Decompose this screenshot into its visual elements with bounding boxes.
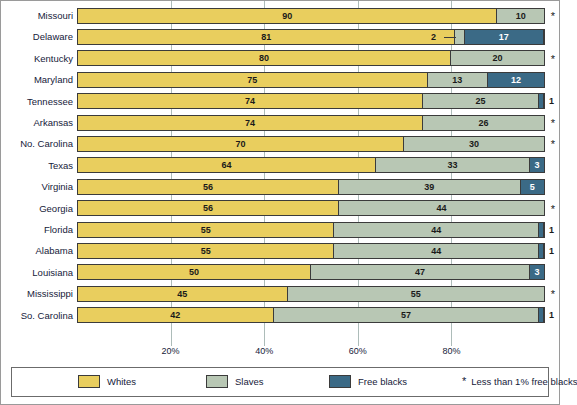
segment-slaves: [455, 30, 464, 44]
segment-whites: 74: [78, 116, 423, 130]
row-label-florida: Florida: [1, 219, 73, 240]
row-label-arkansas: Arkansas: [1, 112, 73, 133]
stacked-bar-chart: Missouri9010*Delaware81172Kentucky8020*M…: [1, 1, 559, 346]
segment-free-blacks-label: 1: [549, 310, 554, 320]
segment-slaves-label: 2: [431, 32, 436, 42]
bar-track: 74251: [77, 93, 545, 109]
leader-line: [444, 37, 456, 38]
segment-whites: 90: [78, 9, 497, 23]
bar-track: 64333: [77, 157, 545, 173]
bar-track: 81172: [77, 29, 545, 45]
segment-slaves: 30: [404, 137, 544, 151]
chart-legend: Whites Slaves Free blacks * Less than 1%…: [11, 367, 549, 397]
chart-row: Georgia5644*: [1, 198, 559, 219]
asterisk-icon: *: [462, 375, 466, 387]
segment-whites: 55: [78, 223, 334, 237]
row-label-louisiana: Louisiana: [1, 262, 73, 283]
legend-label-whites: Whites: [107, 376, 136, 387]
legend-label-slaves: Slaves: [235, 376, 264, 387]
segment-slaves: 26: [423, 116, 544, 130]
bar-track: 5644: [77, 200, 545, 216]
asterisk-icon: *: [548, 283, 558, 304]
chart-row: Texas64333: [1, 155, 559, 176]
row-label-mississippi: Mississippi: [1, 283, 73, 304]
segment-free-blacks: [539, 223, 544, 237]
row-label-texas: Texas: [1, 155, 73, 176]
row-label-no-carolina: No. Carolina: [1, 133, 73, 154]
segment-slaves: 20: [451, 51, 544, 65]
asterisk-icon: *: [548, 5, 558, 26]
row-label-maryland: Maryland: [1, 69, 73, 90]
segment-slaves: 25: [423, 94, 540, 108]
segment-whites: 70: [78, 137, 404, 151]
legend-swatch-whites: [78, 375, 100, 388]
segment-free-blacks-label: 1: [549, 96, 554, 106]
segment-whites: 56: [78, 180, 339, 194]
chart-row: Missouri9010*: [1, 5, 559, 26]
legend-footnote: * Less than 1% free blacks: [462, 375, 577, 387]
segment-free-blacks: [539, 308, 544, 322]
chart-row: Arkansas7426*: [1, 112, 559, 133]
chart-row: Tennessee74251: [1, 91, 559, 112]
bar-track: 55441: [77, 222, 545, 238]
x-tick-label: 80%: [442, 346, 460, 356]
bar-track: 7426: [77, 115, 545, 131]
chart-row: Virginia56395: [1, 176, 559, 197]
segment-slaves: 47: [311, 265, 530, 279]
chart-row: Delaware81172: [1, 26, 559, 47]
bar-track: 56395: [77, 179, 545, 195]
row-label-delaware: Delaware: [1, 26, 73, 47]
bar-track: 751312: [77, 72, 545, 88]
legend-item-whites: Whites: [78, 375, 136, 388]
legend-label-free-blacks: Free blacks: [358, 376, 407, 387]
segment-slaves: 44: [334, 244, 539, 258]
segment-slaves: 13: [428, 73, 489, 87]
segment-whites: 45: [78, 287, 288, 301]
chart-row: Louisiana50473: [1, 262, 559, 283]
chart-row: Mississippi4555*: [1, 283, 559, 304]
legend-swatch-free-blacks: [329, 375, 351, 388]
segment-whites: 74: [78, 94, 423, 108]
segment-slaves: 33: [376, 158, 530, 172]
segment-whites: 81: [78, 30, 455, 44]
segment-whites: 56: [78, 201, 339, 215]
segment-free-blacks: 17: [465, 30, 544, 44]
chart-row: Florida55441: [1, 219, 559, 240]
bar-track: 55441: [77, 243, 545, 259]
segment-free-blacks: [539, 244, 544, 258]
chart-row: No. Carolina7030*: [1, 133, 559, 154]
segment-slaves: 44: [334, 223, 539, 237]
segment-slaves: 44: [339, 201, 544, 215]
segment-whites: 64: [78, 158, 376, 172]
segment-whites: 55: [78, 244, 334, 258]
segment-free-blacks: 5: [521, 180, 544, 194]
x-tick-label: 40%: [255, 346, 273, 356]
segment-slaves: 10: [497, 9, 544, 23]
x-axis: 20%40%60%80%: [1, 346, 559, 362]
chart-row: So. Carolina42571: [1, 305, 559, 326]
segment-free-blacks: 3: [530, 158, 544, 172]
row-label-tennessee: Tennessee: [1, 91, 73, 112]
segment-free-blacks: 3: [530, 265, 544, 279]
asterisk-icon: *: [548, 198, 558, 219]
row-label-so-carolina: So. Carolina: [1, 305, 73, 326]
segment-whites: 50: [78, 265, 311, 279]
segment-whites: 42: [78, 308, 274, 322]
asterisk-icon: *: [548, 112, 558, 133]
legend-item-free-blacks: Free blacks: [329, 375, 407, 388]
row-label-kentucky: Kentucky: [1, 48, 73, 69]
bar-track: 50473: [77, 264, 545, 280]
segment-slaves: 39: [339, 180, 521, 194]
row-label-missouri: Missouri: [1, 5, 73, 26]
bar-track: 7030: [77, 136, 545, 152]
x-tick-label: 20%: [162, 346, 180, 356]
legend-swatch-slaves: [206, 375, 228, 388]
segment-free-blacks: [539, 94, 544, 108]
chart-row: Kentucky8020*: [1, 48, 559, 69]
row-label-alabama: Alabama: [1, 240, 73, 261]
segment-whites: 75: [78, 73, 428, 87]
asterisk-icon: *: [548, 48, 558, 69]
chart-row: Maryland751312: [1, 69, 559, 90]
bar-track: 42571: [77, 307, 545, 323]
